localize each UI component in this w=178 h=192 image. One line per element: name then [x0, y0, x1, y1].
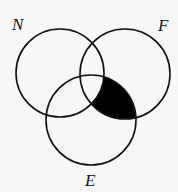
set-e-label: E	[84, 171, 96, 190]
venn-diagram: N F E	[0, 0, 178, 192]
set-f-label: F	[157, 16, 169, 35]
set-n-label: N	[11, 15, 25, 34]
